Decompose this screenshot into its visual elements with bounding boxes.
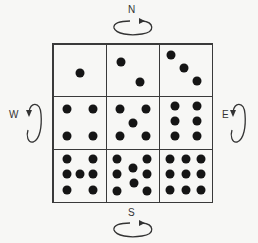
pip-dot [62,185,71,194]
pip-dot [129,179,138,188]
pip-dot [181,170,190,179]
pip-dot [112,170,121,179]
pip-dot [88,131,97,140]
pip-dot [141,104,150,113]
pip-dot [75,68,84,77]
north-label: N [128,4,135,15]
dice-cell-4 [53,96,107,150]
east-rotation-arrow-icon [230,100,250,146]
pip-dot [143,155,152,164]
east-label: E [222,109,229,120]
pip-dot [165,170,174,179]
pip-dot [166,50,175,59]
dice-cell-5 [106,96,160,150]
dice-cell-7 [53,149,107,203]
pip-dot [115,131,124,140]
pip-dot [88,155,97,164]
pip-dot [192,102,201,111]
pip-dot [141,131,150,140]
pip-dot [62,131,71,140]
pip-dot [112,155,121,164]
pip-dot [179,63,188,72]
pip-dot [192,76,201,85]
north-rotation-arrow-icon [112,18,156,38]
pip-dot [75,170,84,179]
dice-cell-2 [106,44,160,98]
pip-dot [171,132,180,141]
pip-dot [117,57,126,66]
dice-cell-9 [159,149,213,203]
pip-dot [143,170,152,179]
pip-dot [88,185,97,194]
pip-dot [171,117,180,126]
dice-cell-8 [106,149,160,203]
dice-cell-3 [159,44,213,98]
pip-dot [88,170,97,179]
dice-grid [52,43,213,203]
pip-dot [181,185,190,194]
pip-dot [62,104,71,113]
pip-dot [165,155,174,164]
pip-dot [143,187,152,196]
south-label: S [128,207,135,218]
pip-dot [197,170,206,179]
pip-dot [128,118,137,127]
pip-dot [181,155,190,164]
pip-dot [112,187,121,196]
pip-dot [197,185,206,194]
dice-cell-1 [53,44,107,98]
pip-dot [136,77,145,86]
pip-dot [197,155,206,164]
pip-dot [62,170,71,179]
west-rotation-arrow-icon [24,100,44,146]
pip-dot [192,132,201,141]
dice-cell-6 [159,96,213,150]
pip-dot [171,102,180,111]
pip-dot [165,185,174,194]
pip-dot [192,117,201,126]
pip-dot [62,155,71,164]
south-rotation-arrow-icon [112,220,156,240]
west-label: W [9,109,18,120]
pip-dot [88,104,97,113]
pip-dot [128,163,137,172]
pip-dot [115,104,124,113]
